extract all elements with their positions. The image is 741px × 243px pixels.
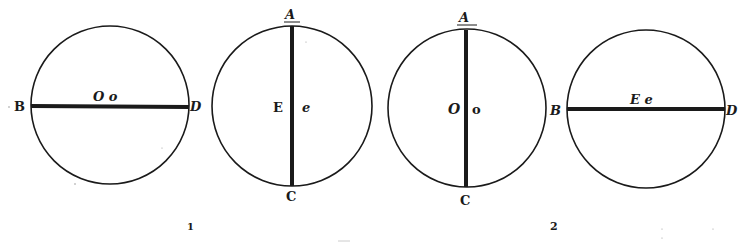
- fig1-left-circle-group: B D O o: [14, 26, 202, 184]
- fig1-label-b: B: [14, 99, 25, 114]
- fig2-label-o-lower: o: [472, 102, 481, 117]
- figure-number-2: 2: [550, 220, 558, 233]
- diagram-canvas: B D O o A C E e A C O o B D E e 1 2: [0, 0, 741, 243]
- fig1-label-a: A: [283, 7, 295, 22]
- fig2-left-circle-group: A C O o: [388, 10, 546, 208]
- fig1-label-e-lower: e: [302, 100, 310, 115]
- fig1-left-diameter-bd: [31, 106, 189, 107]
- fig1-label-center-oo: O o: [93, 89, 118, 104]
- fig2-label-d: D: [725, 103, 738, 118]
- fig2-label-o-upper: O: [448, 101, 461, 117]
- fig1-label-c: C: [286, 189, 296, 204]
- figure-number-1: 1: [187, 221, 194, 232]
- fig2-label-center-ee: E e: [629, 92, 653, 107]
- fig1-label-d: D: [189, 99, 202, 114]
- fig2-label-a: A: [457, 10, 469, 25]
- fig2-label-c: C: [460, 193, 470, 208]
- fig1-right-circle-group: A C E e: [212, 7, 372, 204]
- fig2-label-b: B: [549, 103, 561, 118]
- print-specks: [8, 41, 713, 238]
- fig2-right-circle-group: B D E e: [549, 30, 738, 188]
- fig1-label-e-upper: E: [273, 100, 283, 115]
